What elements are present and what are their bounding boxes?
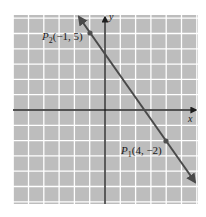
point-p2-marker (87, 30, 92, 35)
p2-coords: (−1, 5) (53, 30, 83, 43)
point-p1-marker (163, 138, 168, 143)
p1-coords: (4, −2) (132, 144, 162, 157)
coordinate-plane: x y P2(−1, 5) P1(4, −2) (0, 0, 206, 217)
x-axis-label: x (187, 113, 193, 124)
y-axis-label: y (108, 11, 114, 22)
